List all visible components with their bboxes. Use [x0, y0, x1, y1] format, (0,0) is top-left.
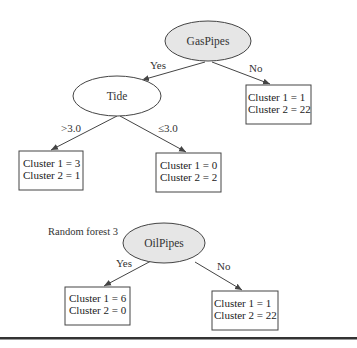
leaf-line-1: Cluster 1 = 1 — [248, 91, 305, 103]
leaf-line-2: Cluster 2 = 22 — [248, 103, 311, 115]
leaf-line-1: Cluster 1 = 6 — [69, 292, 127, 304]
decision-tree-diagram: GasPipes Yes No Tide >3.0 ≤3.0 Cluster 1… — [0, 0, 357, 348]
edge-label-gt: >3.0 — [61, 122, 81, 134]
node-oilpipes: OilPipes — [123, 223, 205, 263]
node-gaspipes-label: GasPipes — [187, 35, 230, 48]
tree-2-title: Random forest 3 — [48, 226, 118, 237]
leaf-line-1: Cluster 1 = 0 — [160, 159, 218, 171]
edge-label-no: No — [249, 62, 263, 74]
edge-label-le: ≤3.0 — [158, 122, 178, 134]
edge-label-yes: Yes — [150, 59, 166, 71]
tree-2: Random forest 3 OilPipes Yes No Cluster … — [48, 223, 278, 330]
node-gaspipes: GasPipes — [165, 21, 251, 61]
leaf-line-1: Cluster 1 = 1 — [214, 297, 271, 309]
leaf-line-2: Cluster 2 = 2 — [160, 171, 217, 183]
edge-label-no: No — [217, 260, 231, 272]
edge-label-yes: Yes — [116, 257, 132, 269]
leaf-tide-le: Cluster 1 = 0 Cluster 2 = 2 — [156, 153, 221, 192]
bottom-rule — [0, 337, 357, 340]
leaf-line-2: Cluster 2 = 1 — [23, 169, 80, 181]
leaf-line-2: Cluster 2 = 22 — [214, 309, 277, 321]
tree-1: GasPipes Yes No Tide >3.0 ≤3.0 Cluster 1… — [19, 21, 311, 192]
node-tide-label: Tide — [107, 90, 128, 102]
leaf-gaspipes-no: Cluster 1 = 1 Cluster 2 = 22 — [246, 85, 311, 124]
leaf-oilpipes-yes: Cluster 1 = 6 Cluster 2 = 0 — [65, 287, 130, 325]
node-oilpipes-label: OilPipes — [144, 237, 184, 250]
leaf-line-1: Cluster 1 = 3 — [23, 157, 81, 169]
leaf-tide-gt: Cluster 1 = 3 Cluster 2 = 1 — [19, 151, 83, 190]
node-tide: Tide — [73, 76, 161, 116]
leaf-line-2: Cluster 2 = 0 — [69, 304, 127, 316]
leaf-oilpipes-no: Cluster 1 = 1 Cluster 2 = 22 — [212, 291, 278, 330]
